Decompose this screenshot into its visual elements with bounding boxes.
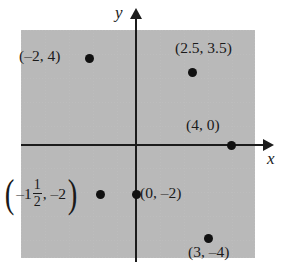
grid-hline (21, 78, 255, 79)
fraction-denominator: 2 (34, 195, 41, 209)
grid-hline (21, 168, 255, 169)
grid-hline (21, 102, 255, 103)
mixed-whole-part: –1 (16, 186, 32, 202)
y-axis-label: y (115, 4, 123, 21)
data-point (85, 54, 94, 63)
y-axis (135, 16, 137, 262)
open-paren: ( (5, 178, 15, 209)
point-label-c: (4, 0) (186, 117, 220, 133)
grid-hline (21, 240, 255, 241)
data-point (227, 141, 236, 150)
point-label-e: (3, –4) (188, 244, 229, 260)
fraction-numerator: 1 (34, 178, 41, 192)
data-point (96, 190, 105, 199)
point-label-a: (–2, 4) (19, 48, 60, 64)
x-axis-label: x (267, 150, 275, 167)
data-point (204, 234, 213, 243)
fraction-one-half: 1 2 (33, 178, 42, 210)
point-label-b: (2.5, 3.5) (175, 40, 232, 56)
point-label-f-mixed-number: ( –1 1 2 , –2 ) (3, 178, 79, 210)
grid-hline (21, 216, 255, 217)
y-axis-arrow-icon (130, 8, 142, 19)
coordinate-plane-figure: x y (–2, 4) (2.5, 3.5) (4, 0) (0, –2) (3… (0, 0, 281, 272)
mixed-second-coordinate: , –2 (43, 186, 66, 202)
data-point (188, 68, 197, 77)
grid-hline (21, 30, 255, 31)
point-label-d: (0, –2) (140, 185, 181, 201)
close-paren: ) (68, 178, 78, 209)
